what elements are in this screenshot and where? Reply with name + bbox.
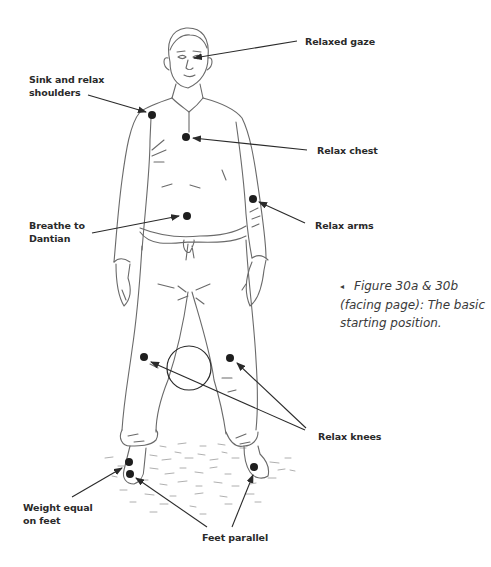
caption-line2: (facing page): The basic [340, 296, 485, 314]
dot-chest [182, 133, 190, 141]
label-relax-chest: Relax chest [317, 145, 378, 158]
label-relax-knees: Relax knees [318, 431, 381, 444]
dot-dantian [183, 212, 191, 220]
figure-caption: ◂Figure 30a & 30b (facing page): The bas… [340, 277, 485, 332]
caption-line3: starting position. [340, 314, 485, 332]
label-shoulders: Sink and relax shoulders [29, 74, 104, 99]
dot-foot-right [250, 463, 258, 471]
dot-arm [249, 195, 257, 203]
dot-foot-left-lower [126, 470, 134, 478]
dot-knee-left [140, 353, 148, 361]
figure-outline [114, 28, 269, 484]
label-feet-parallel: Feet parallel [202, 532, 268, 545]
arrow-parallel-right [232, 475, 253, 527]
label-weight-equal: Weight equal on feet [23, 502, 93, 527]
ground-texture [105, 443, 295, 514]
label-shoulders-line1: Sink and relax [29, 74, 104, 87]
arrow-parallel-left [136, 478, 207, 527]
label-relax-arms: Relax arms [315, 220, 374, 233]
label-dantian: Breathe to Dantian [29, 220, 85, 245]
arrow-arms [259, 202, 305, 223]
arrow-knee-left [151, 362, 305, 430]
dot-shoulder [148, 111, 156, 119]
dot-foot-left-upper [125, 458, 133, 466]
label-weight-line2: on feet [23, 515, 93, 528]
caption-bullet-icon: ◂ [340, 282, 344, 291]
arrow-gaze [194, 41, 297, 58]
label-weight-line1: Weight equal [23, 502, 93, 515]
arrow-weight [72, 468, 122, 497]
knee-circle [167, 346, 211, 390]
caption-line1-text: Figure 30a & 30b [354, 279, 458, 293]
caption-line1: ◂Figure 30a & 30b [340, 277, 485, 296]
arrow-knee-right [237, 363, 306, 428]
label-dantian-line2: Dantian [29, 233, 85, 246]
dot-knee-right [226, 354, 234, 362]
annotation-dots [125, 111, 258, 478]
arrow-dantian [92, 216, 179, 233]
label-shoulders-line2: shoulders [29, 87, 104, 100]
label-dantian-line1: Breathe to [29, 220, 85, 233]
label-relaxed-gaze: Relaxed gaze [305, 36, 375, 49]
